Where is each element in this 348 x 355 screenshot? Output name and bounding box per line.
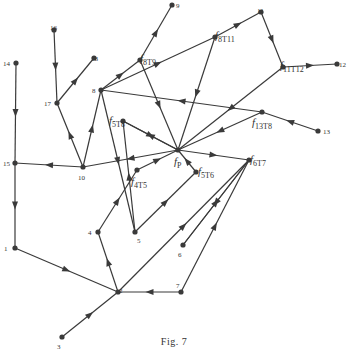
node-label-13: 13 [323, 128, 331, 136]
arrow-icon [268, 35, 277, 45]
arrow-icon [45, 162, 53, 168]
node-14 [13, 60, 18, 65]
arrow-icon [12, 109, 18, 117]
arrow-icon [62, 266, 72, 275]
node-label-7: 7 [176, 282, 180, 290]
arrow-icon [88, 124, 96, 133]
arrow-icon [211, 221, 220, 231]
node-label-fp: fP [174, 155, 182, 170]
node-label-16: 16 [50, 24, 58, 32]
node-f13T8 [259, 109, 264, 114]
arrow-icon [306, 62, 314, 68]
graph-diagram: 123456789101112131415161718fPf8T9f8T11f1… [0, 0, 348, 355]
arrow-icon [113, 196, 122, 206]
node-label-f5T6: f5T6 [198, 165, 214, 180]
node-13 [315, 128, 320, 133]
figure-caption: Fig. 7 [0, 336, 348, 347]
node-fp [175, 147, 180, 152]
node-label-f6T7: f6T7 [250, 153, 266, 168]
arrow-icon [155, 100, 164, 110]
node-label-15: 15 [3, 160, 11, 168]
node-label-f8T9: f8T9 [140, 52, 156, 67]
node-label-f4T5: f4T5 [131, 175, 147, 190]
node-label-18: 18 [91, 55, 99, 63]
node-label-f5T8: f5T8 [109, 114, 125, 129]
arrow-icon [215, 127, 225, 136]
node-7 [178, 289, 183, 294]
arrow-icon [66, 130, 75, 140]
node-1 [12, 245, 17, 250]
node-label-2: 2 [119, 287, 123, 295]
node-label-f11T12: f11T12 [280, 59, 304, 74]
node-label-11: 11 [257, 7, 264, 15]
node-label-1: 1 [4, 245, 8, 253]
arrow-icon [233, 20, 243, 29]
node-label-12: 12 [339, 61, 347, 69]
node-label-17: 17 [44, 100, 52, 108]
node-15 [12, 160, 17, 165]
arrow-icon [151, 28, 160, 38]
arrow-icon [153, 156, 163, 165]
edges-group [12, 5, 337, 337]
node-label-8: 8 [92, 87, 96, 95]
node-label-10: 10 [78, 174, 86, 182]
arrow-icon [12, 202, 18, 210]
node-label-5: 5 [137, 237, 141, 245]
node-label-14: 14 [3, 60, 11, 68]
node-4 [95, 229, 100, 234]
node-f4T5 [134, 167, 139, 172]
node-9 [169, 2, 174, 7]
node-10 [80, 164, 85, 169]
arrow-icon [192, 89, 200, 98]
node-5 [132, 229, 137, 234]
node-label-f13T8: f13T8 [252, 116, 272, 131]
node-label-9: 9 [176, 2, 180, 10]
node-label-6: 6 [178, 251, 182, 259]
arrow-icon [52, 62, 58, 70]
node-label-4: 4 [88, 229, 92, 237]
node-8 [98, 87, 103, 92]
arrow-icon [285, 117, 295, 125]
arrow-icon [146, 289, 154, 295]
node-6 [180, 242, 185, 247]
node-17 [54, 100, 59, 105]
arrow-icon [104, 257, 112, 266]
